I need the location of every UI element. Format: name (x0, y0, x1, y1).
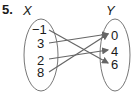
range-value: 0 (111, 29, 118, 42)
domain-value: 8 (37, 66, 44, 79)
domain-value: −1 (32, 23, 47, 36)
range-value: 6 (111, 58, 118, 71)
domain-value: 3 (37, 37, 44, 50)
